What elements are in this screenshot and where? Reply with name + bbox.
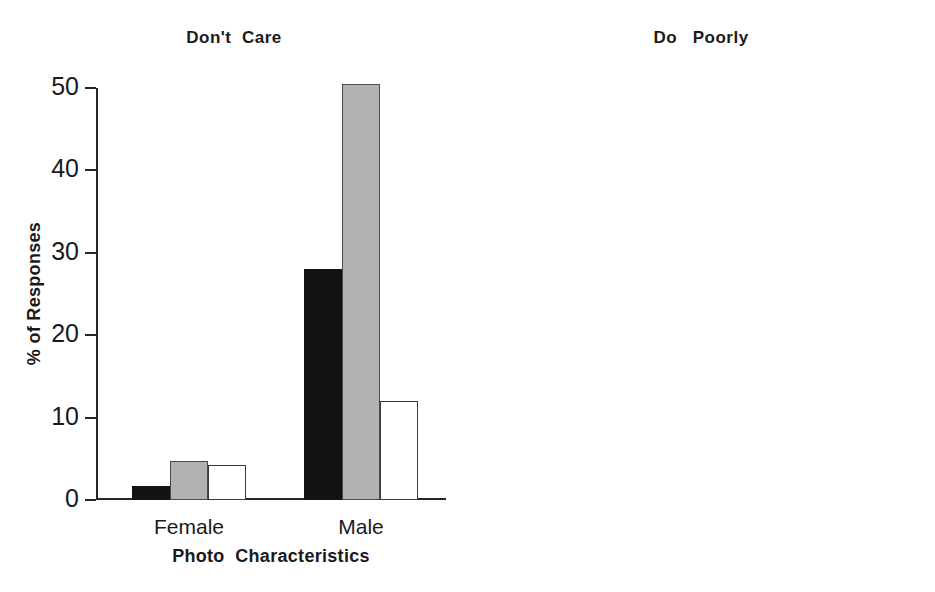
y-tick-label: 20 — [51, 320, 79, 346]
y-tick-mark: 50 — [85, 87, 96, 89]
y-tick-mark: 20 — [85, 334, 96, 336]
panel-title-do-poorly: Do Poorly — [467, 28, 935, 48]
bars-group — [96, 88, 446, 500]
y-tick-label: 50 — [51, 73, 79, 99]
y-axis-title: % of Responses — [24, 88, 45, 500]
category-label-female: Female — [154, 516, 224, 538]
y-tick-label: 10 — [51, 403, 79, 429]
chart-panel-dont-care: Don't Care % of Responses 01020304050 Fe… — [0, 0, 468, 592]
bar-female-black — [132, 486, 170, 500]
bar-male-black — [304, 269, 342, 500]
bar-male-white — [380, 401, 418, 500]
y-tick-label: 30 — [51, 238, 79, 264]
category-label-male: Male — [338, 516, 384, 538]
chart-panel-do-poorly: Do Poorly 01020304050 FemaleMale Photo C… — [467, 0, 935, 592]
y-tick-mark: 0 — [85, 499, 96, 501]
bar-female-gray — [170, 461, 208, 500]
y-tick-label: 0 — [65, 485, 79, 511]
y-tick-mark: 10 — [85, 417, 96, 419]
y-tick-mark: 30 — [85, 252, 96, 254]
plot-area-dont-care: 01020304050 FemaleMale — [96, 88, 446, 500]
bar-female-white — [208, 465, 246, 500]
bar-male-gray — [342, 84, 380, 500]
figure-root: Don't Care % of Responses 01020304050 Fe… — [0, 0, 935, 592]
x-axis-title: Photo Characteristics — [172, 546, 370, 567]
y-tick-mark: 40 — [85, 169, 96, 171]
y-tick-label: 40 — [51, 155, 79, 181]
